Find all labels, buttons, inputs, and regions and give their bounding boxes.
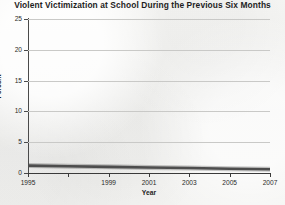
x-tick-label: 1995 (21, 179, 36, 186)
x-tick-mark (109, 173, 110, 177)
y-tick-label: 25 (0, 15, 22, 22)
x-tick-label: 2005 (222, 179, 237, 186)
x-tick-label: 2003 (182, 179, 197, 186)
x-axis-title: Year (28, 189, 270, 196)
chart-title: Violent Victimization at School During t… (0, 0, 285, 11)
x-tick-label: 1999 (101, 179, 116, 186)
x-tick-mark (270, 173, 271, 177)
x-tick-mark (68, 173, 69, 177)
x-tick-mark (189, 173, 190, 177)
x-tick-mark (149, 173, 150, 177)
x-tick-label: 2001 (142, 179, 157, 186)
y-axis-title: Percent (0, 74, 2, 98)
y-tick-label: 10 (0, 107, 22, 114)
x-tick-mark (230, 173, 231, 177)
chart-canvas: Violent Victimization at School During t… (0, 0, 285, 205)
x-tick-mark (28, 173, 29, 177)
line-series-violent-victimization (28, 19, 270, 173)
y-tick-label: 20 (0, 46, 22, 53)
series-line (28, 166, 270, 170)
y-tick-label: 15 (0, 77, 22, 84)
y-tick-label: 5 (0, 138, 22, 145)
y-tick-label: 0 (0, 169, 22, 176)
x-tick-label: 2007 (263, 179, 278, 186)
data-series-layer (28, 19, 270, 173)
